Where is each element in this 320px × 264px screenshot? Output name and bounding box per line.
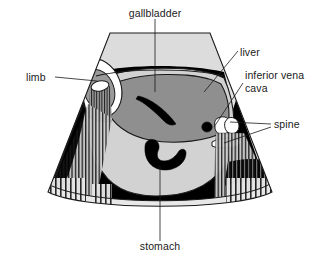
descending-aorta — [202, 122, 212, 132]
label-gallbladder: gallbladder — [129, 7, 182, 19]
label-inferior-vena-cava-line2: cava — [245, 82, 268, 94]
label-spine: spine — [274, 118, 300, 130]
far-field-shadow-left — [38, 178, 86, 222]
ultrasound-diagram-figure: gallbladder liver inferior vena cava spi… — [0, 0, 320, 264]
leader-limb — [55, 77, 97, 81]
vertebral-body — [225, 117, 239, 133]
label-inferior-vena-cava-line1: inferior vena — [245, 69, 304, 81]
far-field-shadow-right — [226, 178, 282, 224]
label-stomach: stomach — [140, 240, 180, 252]
label-limb: limb — [26, 71, 46, 83]
label-liver: liver — [240, 46, 260, 58]
ultrasound-sector-scan: gallbladder liver inferior vena cava spi… — [0, 0, 320, 264]
